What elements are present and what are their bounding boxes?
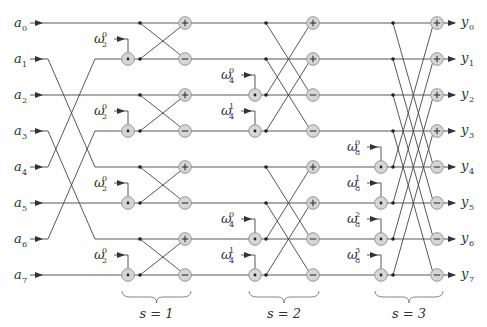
input-label-a7: a7: [14, 267, 27, 285]
twiddle-label-s1-row7-subscript: 2: [102, 256, 107, 265]
input-label-a5-symbol: a: [14, 195, 22, 210]
wire: [377, 219, 381, 233]
twiddle-label-s1-row1-superscript: 0: [102, 30, 107, 39]
output-label-y3-symbol: y: [460, 122, 469, 137]
twiddle-multiplier-s3-row5: [375, 197, 388, 210]
op-node-s2-row1: +: [307, 53, 320, 66]
junction-dot: [264, 129, 268, 133]
twiddle-label-s2-row6: ω04: [221, 210, 234, 229]
wire: [124, 255, 128, 269]
wire: [140, 23, 181, 55]
wire: [124, 39, 128, 53]
multiply-dot-icon: [254, 274, 257, 277]
twiddle-label-s2-row2-subscript: 4: [229, 76, 234, 85]
twiddle-label-s1-row5-subscript: 2: [102, 184, 107, 193]
input-label-a3-symbol: a: [14, 123, 22, 138]
twiddle-multiplier-s2-row6: [249, 233, 262, 246]
wire: [251, 219, 255, 233]
op-node-s3-row1: +: [431, 53, 444, 66]
wire: [393, 95, 433, 235]
wire: [266, 167, 309, 235]
twiddle-label-s1-row1-subscript: 2: [102, 40, 107, 49]
junction-dot: [138, 21, 142, 25]
output-label-y0-symbol: y: [460, 14, 469, 29]
multiply-dot-icon: [127, 130, 130, 133]
input-label-a0: a0: [14, 15, 27, 33]
output-label-y3: y3: [460, 122, 474, 140]
junction-dot: [138, 237, 142, 241]
twiddle-label-s3-row6-superscript: 2: [355, 210, 360, 219]
wire: [266, 203, 309, 271]
input-label-a1-subscript: 1: [22, 60, 27, 69]
output-label-y3-subscript: 3: [469, 131, 474, 140]
twiddle-label-s2-row6-subscript: 4: [229, 220, 234, 229]
wire: [42, 59, 95, 167]
stage-brace-s1: [122, 291, 191, 303]
junction-dot: [264, 237, 268, 241]
output-label-y7-symbol: y: [460, 266, 469, 281]
twiddle-label-s1-row3-subscript: 2: [102, 112, 107, 121]
input-label-a2-subscript: 2: [22, 96, 27, 105]
twiddle-label-s3-row4: ω08: [347, 138, 360, 157]
wire: [266, 59, 309, 127]
input-label-a6-subscript: 6: [22, 240, 27, 249]
input-label-a6-symbol: a: [14, 231, 22, 246]
output-label-y4-symbol: y: [460, 158, 469, 173]
input-label-a1-symbol: a: [14, 51, 22, 66]
twiddle-label-s3-row4-subscript: 8: [355, 148, 360, 157]
twiddle-label-s3-row5-subscript: 8: [355, 184, 360, 193]
op-node-s1-row1: −: [179, 53, 192, 66]
multiply-dot-icon: [380, 202, 383, 205]
input-label-a3: a3: [14, 123, 27, 141]
multiply-dot-icon: [127, 274, 130, 277]
wire: [377, 255, 381, 269]
input-label-a1: a1: [14, 51, 27, 69]
junction-dot: [138, 165, 142, 169]
output-label-y2-symbol: y: [460, 86, 469, 101]
input-label-a4: a4: [14, 159, 27, 177]
twiddle-label-s2-row7-superscript: 1: [229, 246, 234, 255]
junction-dot: [391, 57, 395, 61]
twiddle-multiplier-s2-row3: [249, 125, 262, 138]
twiddle-label-s2-row7: ω14: [221, 246, 234, 265]
input-label-a5: a5: [14, 195, 27, 213]
wire: [266, 23, 309, 91]
junction-dot: [138, 273, 142, 277]
twiddle-label-s2-row6-superscript: 0: [229, 210, 234, 219]
wire: [140, 243, 181, 275]
twiddle-label-s2-row2-superscript: 0: [229, 66, 234, 75]
junction-dot: [264, 273, 268, 277]
twiddle-label-s3-row7-subscript: 8: [355, 256, 360, 265]
wire: [393, 63, 433, 203]
wire: [266, 63, 309, 131]
multiply-dot-icon: [380, 274, 383, 277]
twiddle-label-s3-row6-subscript: 8: [355, 220, 360, 229]
twiddle-multiplier-s1-row5: [122, 197, 135, 210]
junction-dot: [138, 201, 142, 205]
junction-dot: [391, 237, 395, 241]
output-label-y1: y1: [460, 50, 474, 68]
stage-brace-s2: [249, 291, 319, 303]
twiddle-multiplier-s1-row7: [122, 269, 135, 282]
twiddle-label-s3-row7-superscript: 3: [355, 246, 360, 255]
stage-label-s2: s = 2: [267, 306, 301, 321]
output-label-y1-symbol: y: [460, 50, 469, 65]
wire: [140, 239, 181, 271]
input-label-a2-symbol: a: [14, 87, 22, 102]
wire: [393, 27, 433, 167]
twiddle-label-s2-row3-superscript: 1: [229, 102, 234, 111]
input-label-a4-symbol: a: [14, 159, 22, 174]
multiply-dot-icon: [254, 238, 257, 241]
junction-dot: [391, 129, 395, 133]
multiply-dot-icon: [254, 130, 257, 133]
op-node-s2-row3: −: [307, 125, 320, 138]
op-node-s1-row2: +: [179, 89, 192, 102]
twiddle-multiplier-s3-row6: [375, 233, 388, 246]
output-label-y5-symbol: y: [460, 194, 469, 209]
wire: [377, 147, 381, 161]
wire: [393, 99, 433, 239]
wire: [377, 183, 381, 197]
multiply-dot-icon: [254, 94, 257, 97]
twiddle-label-s2-row2: ω04: [221, 66, 234, 85]
multiply-dot-icon: [380, 166, 383, 169]
